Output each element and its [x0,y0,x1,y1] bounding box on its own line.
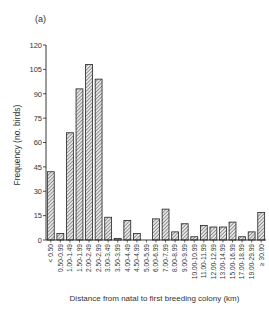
x-tick-label: 11.00-11.99 [200,244,207,279]
histogram-bar [210,227,217,240]
histogram-bar [200,225,207,240]
x-tick-label: < 0.50 [47,244,54,263]
y-axis: 0153045607590105120 [29,41,46,245]
x-tick-label: 5.00-5.99 [143,244,150,272]
x-axis: < 0.500.50-0.991.00-1.491.50-1.992.00-2.… [46,240,266,279]
x-tick-label: 1.00-1.49 [66,244,73,272]
histogram-bar [76,89,83,240]
y-tick-label: 90 [34,90,42,99]
y-tick-label: 75 [34,114,42,123]
x-tick-label: 2.00-2.49 [85,244,92,272]
x-tick-label: 4.00-4.49 [124,244,131,272]
histogram-bar [133,234,140,241]
x-tick-label: 8.00-8.99 [171,244,178,272]
histogram-bar [172,232,179,240]
histogram-bar [124,221,131,241]
x-tick-label: 3.00-3.49 [104,244,111,272]
histogram-bar [220,227,227,240]
x-tick-label: 0.50-0.99 [57,244,64,272]
histogram-bar [153,219,160,240]
x-tick-label: 7.00-7.99 [162,244,169,272]
histogram-bar [181,224,188,240]
y-tick-label: 60 [34,138,42,147]
x-tick-label: 6.00-6.99 [152,244,159,272]
x-tick-label: 4.50-4.99 [133,244,140,272]
x-tick-label: 13.00-14.99 [219,244,226,280]
y-tick-label: 105 [29,65,42,74]
x-tick-label: 15.00-16.99 [229,244,236,280]
histogram-bar [66,133,73,240]
x-tick-label: 12.00-12.99 [210,244,217,280]
histogram-bar [95,79,102,240]
x-tick-label: 2.50-2.99 [95,244,102,272]
x-tick-label: 3.50-3.99 [114,244,121,272]
histogram-bar [258,212,265,240]
y-tick-label: 120 [29,41,42,50]
y-tick-label: 15 [34,211,42,220]
histogram-bar [162,209,169,240]
histogram-bar [229,222,236,240]
y-tick-label: 0 [38,236,42,245]
x-tick-label: 10.00-10.99 [191,244,198,280]
histogram-bar [105,217,112,240]
y-tick-label: 45 [34,163,42,172]
histogram-bar [57,234,64,241]
x-tick-label: 9.00-9.99 [181,244,188,272]
histogram-bar [248,232,255,240]
histogram-chart: 0153045607590105120 < 0.500.50-0.991.00-… [0,0,269,310]
x-tick-label: 17.00-18.99 [238,244,245,280]
x-tick-label: ≥ 30.00 [258,244,265,266]
histogram-bar [86,65,93,241]
x-tick-label: 1.50-1.99 [76,244,83,272]
bars-group [47,65,264,241]
histogram-bar [47,172,54,240]
x-tick-label: 19.00-29.99 [248,244,255,280]
histogram-bar [191,237,198,240]
histogram-bar [239,237,246,240]
y-tick-label: 30 [34,187,42,196]
